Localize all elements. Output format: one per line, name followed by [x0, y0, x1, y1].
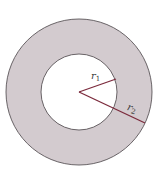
annulus-diagram: r1 r2 — [0, 0, 161, 174]
diagram-canvas: r1 r2 — [0, 0, 161, 174]
